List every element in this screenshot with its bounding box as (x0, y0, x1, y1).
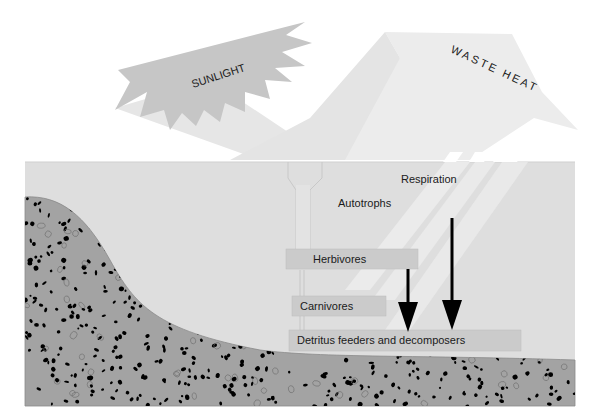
ecosystem-diagram: SUNLIGHT WASTE HEAT Respiration Autotrop… (0, 0, 602, 419)
detritus-box: Detritus feeders and decomposers (289, 330, 521, 351)
herbivores-box: Herbivores (286, 249, 418, 269)
respiration-label: Respiration (401, 173, 457, 185)
svg-text:Herbivores: Herbivores (313, 253, 367, 265)
autotrophs-label: Autotrophs (338, 197, 392, 209)
svg-text:Carnivores: Carnivores (300, 300, 354, 312)
carnivores-box: Carnivores (292, 296, 386, 316)
svg-text:Detritus feeders and decompose: Detritus feeders and decomposers (297, 334, 466, 346)
